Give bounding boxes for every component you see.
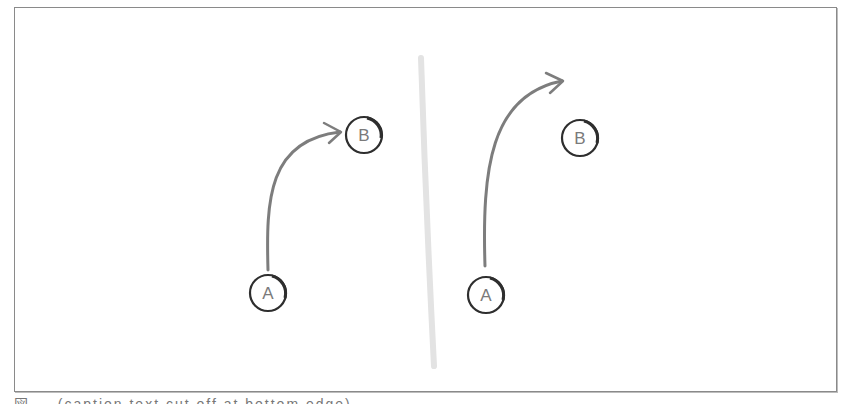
left-arrow-curve	[268, 132, 340, 270]
right-node-a-label: A	[480, 286, 492, 305]
left-node-b-label: B	[358, 126, 369, 145]
left-node-b: B	[346, 117, 382, 153]
right-node-b-label: B	[574, 129, 585, 148]
figure-caption: 図 — (caption text cut off at bottom edge…	[14, 397, 834, 404]
right-node-b: B	[562, 120, 598, 156]
right-panel: B A	[468, 73, 598, 313]
diagram-canvas: B A B A	[0, 0, 848, 404]
right-arrow-curve	[484, 81, 562, 266]
left-panel: B A	[250, 117, 382, 311]
panel-divider	[421, 58, 434, 366]
left-node-a: A	[250, 275, 286, 311]
left-node-a-label: A	[262, 284, 274, 303]
right-node-a: A	[468, 277, 504, 313]
